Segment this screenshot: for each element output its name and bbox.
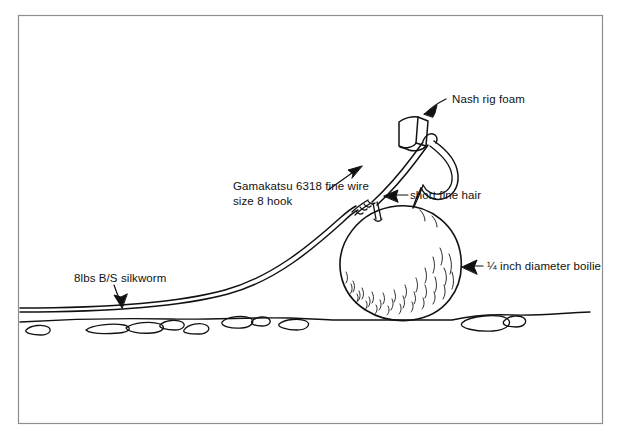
- label-boilie: ¼ inch diameter boilie: [487, 259, 601, 273]
- label-nash-rig-foam: Nash rig foam: [452, 92, 525, 106]
- label-silkworm: 8lbs B/S silkworm: [74, 271, 166, 285]
- label-gamakatsu-hook-line1: Gamakatsu 6318 fine wire: [233, 180, 369, 192]
- label-gamakatsu-hook: Gamakatsu 6318 fine wire size 8 hook: [233, 179, 373, 209]
- label-short-fine-hair: short fine hair: [410, 188, 481, 202]
- label-gamakatsu-hook-line2: size 8 hook: [233, 195, 292, 207]
- rig-illustration: [0, 0, 622, 437]
- figure-frame: [19, 16, 603, 424]
- diagram-canvas: Nash rig foam Gamakatsu 6318 fine wire s…: [0, 0, 622, 437]
